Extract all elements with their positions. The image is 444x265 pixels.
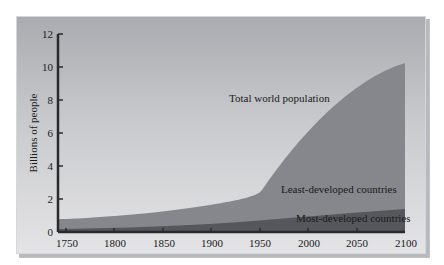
y-tick-label: 0 (48, 226, 54, 238)
chart-svg: 0 2 4 6 8 10 12 1750 1800 1850 1900 1950… (0, 0, 444, 265)
y-tick-label: 12 (42, 28, 53, 40)
label-total-world-population: Total world population (229, 92, 330, 104)
label-most-developed: Most-developed countries (296, 212, 411, 224)
y-tick-label: 8 (48, 94, 54, 106)
x-tick-label: 2050 (346, 237, 369, 249)
x-tick-label: 1800 (104, 237, 127, 249)
area-least-developed (58, 63, 405, 232)
y-tick-label: 10 (42, 61, 54, 73)
y-tick-label: 6 (48, 127, 54, 139)
x-tick-label: 1950 (249, 237, 272, 249)
x-tick-label: 1850 (153, 237, 176, 249)
x-tick-label: 1900 (201, 237, 224, 249)
y-tick-label: 4 (48, 160, 54, 172)
label-least-developed: Least-developed countries (281, 183, 397, 195)
x-tick-label: 2100 (395, 237, 418, 249)
y-axis-title: Billions of people (27, 93, 39, 172)
y-tick-label: 2 (48, 193, 54, 205)
x-tick-label: 1750 (56, 237, 79, 249)
x-tick-label: 2000 (298, 237, 321, 249)
